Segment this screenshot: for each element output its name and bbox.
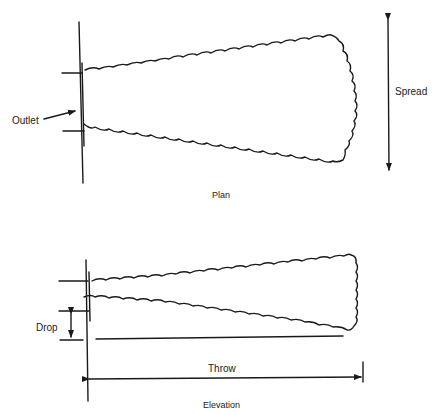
elevation-view (59, 254, 363, 401)
plan-jet-envelope (84, 35, 357, 162)
air-jet-diagram (0, 0, 441, 415)
elevation-outlet-plate (89, 272, 90, 321)
spread-label: Spread (395, 87, 427, 97)
elevation-caption: Elevation (203, 401, 240, 410)
spread-arrow (388, 20, 389, 170)
outlet-label: Outlet (12, 116, 39, 126)
plan-view (44, 20, 389, 183)
plan-caption: Plan (212, 191, 230, 200)
drop-label: Drop (36, 323, 58, 333)
outlet-arrow (44, 111, 75, 119)
throw-arrow (89, 377, 361, 379)
elevation-jet-envelope (84, 254, 358, 330)
throw-label: Throw (208, 364, 236, 374)
floor-reference-line (96, 336, 343, 339)
